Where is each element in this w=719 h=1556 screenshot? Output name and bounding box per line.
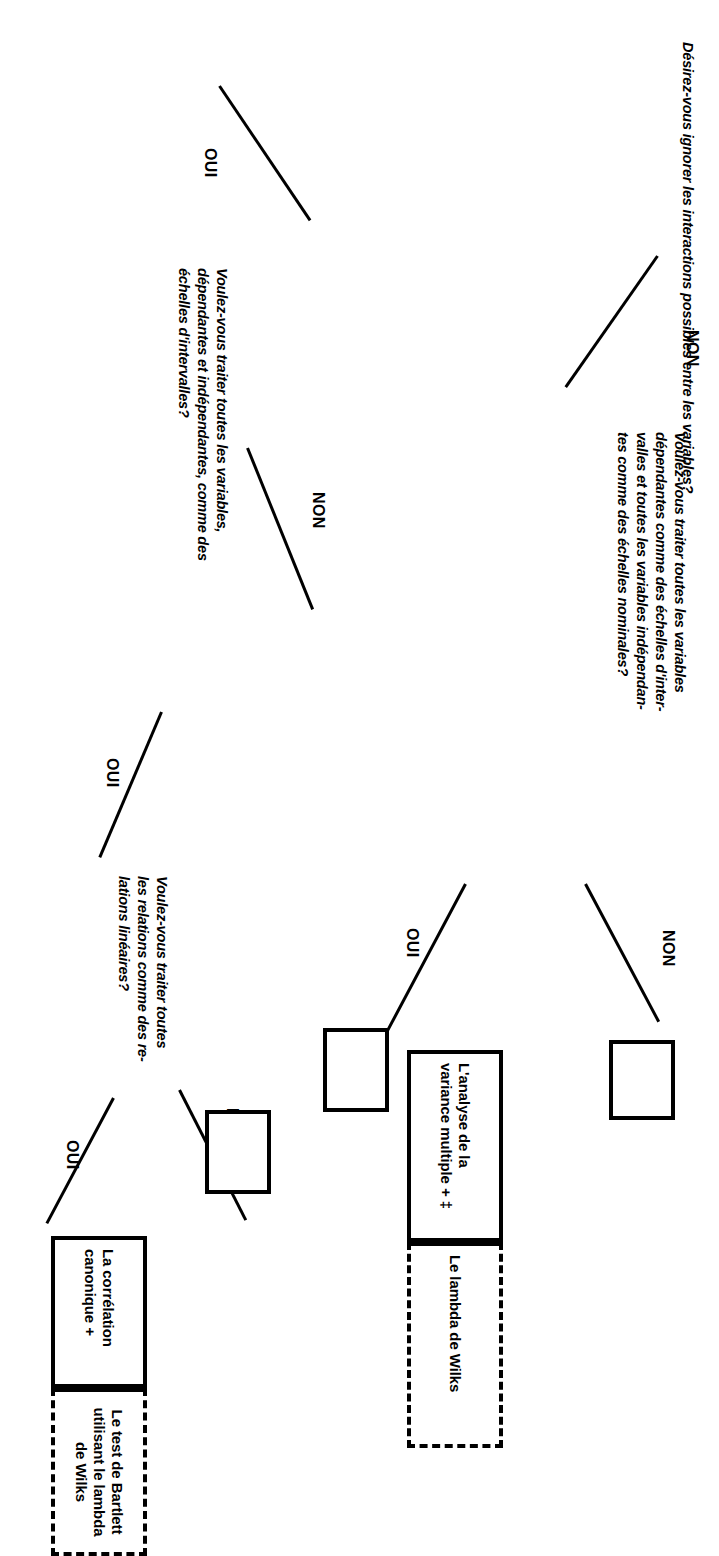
question-linear-relations: Voulez-vous traiter toutes les relations… (114, 876, 171, 1216)
connector-q1-oui (383, 883, 466, 1036)
result-manova-statistic: Le lambda de Wilks (446, 1255, 464, 1392)
branch-label-root-oui: OUI (201, 148, 219, 178)
result-canonical-statistic-cell: Le test de Bartlett utilisant le lambda … (51, 1388, 147, 1556)
empty-box-top[interactable] (609, 1040, 675, 1120)
connector-q1-non (584, 883, 660, 1022)
branch-label-q3-oui: OUI (63, 1140, 81, 1170)
empty-box-middle[interactable] (323, 1028, 389, 1112)
result-manova-method-cell: L'analyse de la variance multiple + ‡ (407, 1050, 503, 1242)
connector-root-oui (218, 85, 311, 221)
connector-q2-non (246, 447, 314, 609)
connector-root-non (564, 255, 658, 388)
result-manova-statistic-cell: Le lambda de Wilks (407, 1242, 503, 1448)
result-canonical-method: La corrélation canonique + (81, 1249, 118, 1347)
empty-box-bottom[interactable] (205, 1110, 271, 1194)
result-canonical-statistic: Le test de Bartlett utilisant le lambda … (72, 1401, 127, 1543)
result-manova-method: L'analyse de la variance multiple + ‡ (437, 1063, 474, 1209)
branch-label-q1-oui: OUI (403, 928, 421, 958)
branch-label-root-non: NON (683, 330, 701, 367)
page-title: Désirez-vous ignorer les interactions po… (678, 42, 697, 493)
branch-label-q1-non: NON (659, 930, 677, 967)
branch-label-q2-oui: OUI (103, 758, 121, 788)
result-box-canonical[interactable]: La corrélation canonique + Le test de Ba… (51, 1236, 147, 1556)
question-interval-scales: Voulez-vous traiter toutes les variables… (174, 268, 231, 718)
branch-label-q2-non: NON (309, 492, 327, 529)
result-box-manova[interactable]: L'analyse de la variance multiple + ‡ Le… (407, 1050, 503, 1448)
result-canonical-method-cell: La corrélation canonique + (51, 1236, 147, 1388)
question-interval-nominal: Voulez-vous traiter toutes les variables… (613, 432, 690, 872)
